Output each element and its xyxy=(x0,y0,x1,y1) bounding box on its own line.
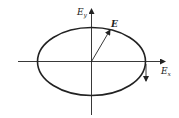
y-axis-label: Ey xyxy=(76,7,88,19)
e-vector-arrow xyxy=(92,30,111,62)
x-axis-label: Ex xyxy=(160,66,172,77)
e-vector-label: E xyxy=(110,19,118,29)
polarization-diagram: Ey E Ex xyxy=(0,0,179,118)
